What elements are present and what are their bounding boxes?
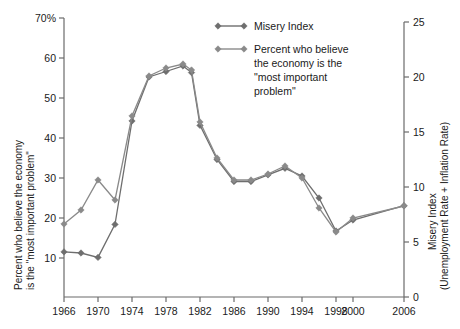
y2-axis-tick-label: 0 [413, 291, 419, 303]
chart-container: Percent who believe the economy is the "… [0, 0, 460, 329]
left-axis-title-line1: Percent who believe the economy [13, 140, 24, 290]
x-axis-tick-label: 1966 [52, 305, 76, 317]
y2-axis-tick-label: 15 [413, 126, 425, 138]
x-axis-tick-label: 1986 [222, 305, 246, 317]
x-axis-tick-label: 1990 [256, 305, 280, 317]
y-axis-tick-label: 30 [44, 172, 56, 184]
legend-label-misery-index: Misery Index [254, 20, 314, 32]
legend-marker [241, 23, 247, 29]
y2-axis-tick-label: 10 [413, 181, 425, 193]
series-percent-economy [61, 61, 407, 235]
y-axis-tick-label: 40 [44, 132, 56, 144]
legend-marker [215, 46, 221, 52]
left-axis-title-line2: is the "most important problem" [25, 151, 36, 290]
series-line [64, 64, 404, 232]
right-axis-title-line2: (Unemployment Rate + Inflation Rate) [439, 122, 450, 290]
data-point-marker [61, 249, 67, 255]
legend-label-percent-economy-line4: problem" [254, 85, 296, 97]
x-axis-tick-label: 1974 [120, 305, 144, 317]
legend-swatch-percent-economy [215, 46, 247, 52]
data-point-marker [78, 250, 84, 256]
data-point-marker [401, 203, 407, 209]
x-axis-tick-label: 2006 [392, 305, 416, 317]
x-axis-tick-label: 1970 [86, 305, 110, 317]
y-axis-tick-label: 70% [35, 12, 56, 24]
legend-label-percent-economy-line1: Percent who believe [254, 43, 349, 55]
y-axis-tick-label: 60 [44, 52, 56, 64]
legend-label-percent-economy-line2: the economy is the [254, 57, 342, 69]
right-axis-title: Misery Index (Unemployment Rate + Inflat… [427, 122, 450, 290]
series-line [64, 66, 404, 257]
right-axis-title-line1: Misery Index [427, 193, 438, 250]
y2-axis-tick-label: 20 [413, 71, 425, 83]
y-axis-tick-label: 50 [44, 92, 56, 104]
axes-layer: 10203040506070%0510152025196619701974197… [35, 12, 425, 317]
x-axis-tick-label: 1994 [290, 305, 314, 317]
x-axis-tick-label: 1982 [188, 305, 212, 317]
data-point-marker [112, 221, 118, 227]
series-layer [61, 61, 407, 261]
left-axis-title: Percent who believe the economy is the "… [13, 140, 36, 290]
x-axis-tick-label: 1978 [154, 305, 178, 317]
misery-index-line-chart: Percent who believe the economy is the "… [0, 0, 460, 329]
y-axis-tick-label: 20 [44, 212, 56, 224]
legend-marker [215, 23, 221, 29]
data-point-marker [95, 254, 101, 260]
y2-axis-tick-label: 5 [413, 236, 419, 248]
legend-layer: Misery IndexPercent who believethe econo… [215, 20, 349, 97]
y-axis-tick-label: 10 [44, 252, 56, 264]
legend-swatch-misery-index [215, 23, 247, 29]
y2-axis-tick-label: 25 [413, 16, 425, 28]
series-misery-index [61, 63, 407, 261]
legend-label-percent-economy-line3: "most important [254, 71, 327, 83]
x-axis-tick-label: 2000 [341, 305, 365, 317]
legend-marker [241, 46, 247, 52]
